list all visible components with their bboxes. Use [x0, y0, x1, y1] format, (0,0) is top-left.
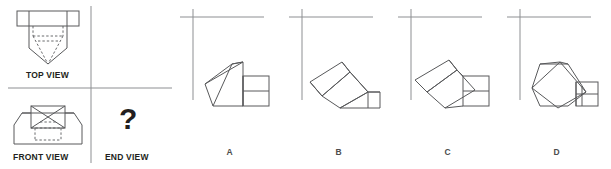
- option-d-label: D: [502, 147, 611, 157]
- front-view-label: FRONT VIEW: [13, 152, 68, 162]
- option-d-drawing: [502, 0, 611, 169]
- option-a-label: A: [175, 147, 284, 157]
- option-b-drawing: [284, 0, 393, 169]
- corner-frame: [507, 9, 591, 100]
- option-a-drawing: [175, 0, 284, 169]
- option-d[interactable]: D: [502, 0, 611, 169]
- projection-question-figure: TOP VIEW FRONT VI: [0, 0, 611, 169]
- front-view-drawing: [0, 0, 175, 169]
- end-view-question-mark: ?: [119, 104, 137, 134]
- option-c-drawing: [393, 0, 502, 169]
- given-views-panel: TOP VIEW FRONT VI: [0, 0, 175, 169]
- option-a[interactable]: A: [175, 0, 284, 169]
- answer-options: A: [175, 0, 611, 169]
- option-c[interactable]: C: [393, 0, 502, 169]
- option-c-label: C: [393, 147, 502, 157]
- option-b-label: B: [284, 147, 393, 157]
- corner-frame: [289, 9, 373, 100]
- end-view-label: END VIEW: [105, 152, 149, 162]
- option-b[interactable]: B: [284, 0, 393, 169]
- corner-frame: [398, 9, 482, 100]
